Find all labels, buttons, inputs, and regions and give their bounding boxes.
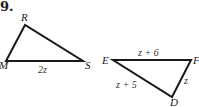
vertex-label-e: E xyxy=(101,54,109,66)
side-label-ms: 2z xyxy=(38,64,47,75)
vertex-label-s: S xyxy=(85,59,91,71)
side-label-ef: z + 6 xyxy=(137,47,159,58)
triangle-efd: E F D z + 6 z + 5 z xyxy=(101,47,199,107)
diagram-canvas: 9. R M S 2z E F D z + 6 z + 5 z xyxy=(0,0,199,107)
triangle-rms: R M S 2z xyxy=(0,11,91,75)
vertex-label-m: M xyxy=(0,59,9,71)
triangle-rms-shape xyxy=(6,25,83,61)
vertex-label-f: F xyxy=(192,54,199,66)
problem-number: 9. xyxy=(0,0,14,14)
side-label-fd: z xyxy=(183,75,188,86)
side-label-ed: z + 5 xyxy=(115,79,137,90)
vertex-label-r: R xyxy=(20,11,28,23)
vertex-label-d: D xyxy=(169,96,178,107)
